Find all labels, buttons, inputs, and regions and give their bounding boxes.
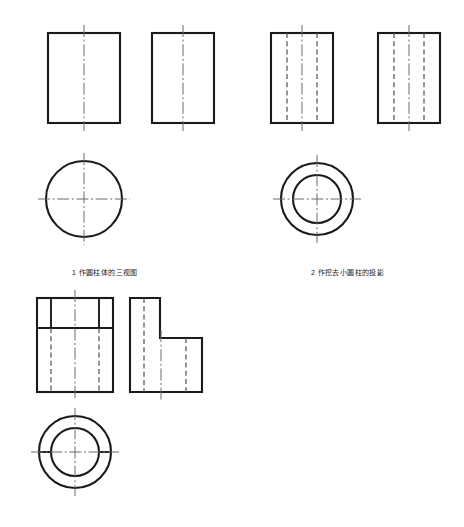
figure-2-side-view [378, 25, 440, 131]
technical-drawing-canvas: .vis{stroke:#1a1a1a;stroke-width:2.1;fil… [0, 0, 464, 527]
figure-2-front-view [271, 25, 333, 131]
figure-2-caption: 2 作挖去小圆柱的投影 [311, 267, 384, 277]
figure-1-group [38, 25, 214, 245]
side-view-l-shape-outline [130, 298, 202, 392]
figure-3-group [31, 290, 202, 496]
figure-1-front-view [48, 25, 120, 131]
figure-1-side-view [152, 25, 214, 131]
figure-2-group [271, 25, 440, 243]
figure-1-caption: 1 作圆柱体的三视图 [72, 267, 138, 277]
drawing-sheet: .vis{stroke:#1a1a1a;stroke-width:2.1;fil… [0, 0, 464, 527]
figure-1-top-view [38, 153, 130, 245]
figure-2-top-view [273, 155, 361, 243]
figure-3-side-view [130, 298, 202, 400]
figure-3-front-view [37, 290, 113, 400]
figure-3-top-view [31, 408, 119, 496]
